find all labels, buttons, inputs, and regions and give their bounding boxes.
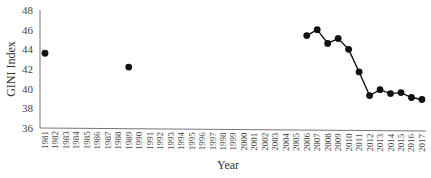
x-tick-label: 1996 <box>197 132 207 151</box>
data-point-2009 <box>335 35 342 42</box>
x-tick-label: 2014 <box>386 133 396 152</box>
y-tick-label: 42 <box>22 63 33 75</box>
data-point-2017 <box>419 96 426 103</box>
y-tick-label: 44 <box>22 43 34 55</box>
x-tick-label: 2011 <box>354 133 364 151</box>
gini-line-chart: 36384042444648 1981198219831984198519861… <box>0 0 431 178</box>
x-tick-label: 2008 <box>323 133 333 152</box>
data-point-2013 <box>377 86 384 93</box>
x-tick-label: 2000 <box>239 132 249 151</box>
x-tick-label: 1993 <box>166 132 176 151</box>
y-tick-label: 36 <box>22 122 34 134</box>
x-tick-label: 1988 <box>113 131 123 150</box>
x-tick-label: 1985 <box>82 131 92 150</box>
x-tick-label: 1986 <box>92 131 102 150</box>
x-tick-label: 2001 <box>249 133 259 151</box>
data-point-2008 <box>324 40 331 47</box>
x-tick-label: 2007 <box>312 133 322 152</box>
x-tick-label: 1997 <box>208 132 218 151</box>
y-tick-label: 48 <box>22 4 34 16</box>
x-tick-label: 2002 <box>260 133 270 151</box>
x-tick-label: 1989 <box>124 131 134 150</box>
x-tick-label: 2009 <box>333 133 343 152</box>
data-point-2011 <box>356 69 363 76</box>
y-axis-title: GINI Index <box>4 41 18 97</box>
x-tick-label: 2015 <box>396 133 406 152</box>
data-point-2014 <box>387 90 394 97</box>
data-point-2016 <box>408 94 415 101</box>
x-tick-label: 2003 <box>270 132 280 151</box>
data-point-1981 <box>42 50 49 57</box>
x-tick-label: 1998 <box>218 132 228 151</box>
x-tick-label: 2006 <box>302 133 312 152</box>
x-tick-label: 2016 <box>406 133 416 152</box>
y-axis-tick-labels: 36384042444648 <box>22 4 34 134</box>
x-tick-label: 1981 <box>40 131 50 149</box>
x-tick-label: 1983 <box>61 131 71 150</box>
x-tick-label: 1999 <box>228 132 238 151</box>
x-tick-label: 1982 <box>50 131 60 149</box>
x-axis-line <box>40 128 426 131</box>
data-point-2015 <box>398 89 405 96</box>
x-tick-label: 1995 <box>187 132 197 151</box>
x-tick-label: 1992 <box>155 132 165 150</box>
data-point-2007 <box>314 26 321 33</box>
y-tick-label: 40 <box>22 83 34 95</box>
x-tick-label: 1987 <box>103 131 113 150</box>
x-tick-label: 2010 <box>344 133 354 152</box>
x-tick-label: 2012 <box>365 134 375 152</box>
x-axis-title: Year <box>217 158 239 172</box>
x-tick-label: 1994 <box>176 132 186 151</box>
series-polyline <box>307 30 422 100</box>
x-tick-label: 1991 <box>145 132 155 150</box>
y-tick-label: 38 <box>22 102 34 114</box>
x-tick-label: 2005 <box>291 132 301 151</box>
series-line <box>307 30 422 100</box>
data-point-2012 <box>366 92 373 99</box>
x-tick-label: 2004 <box>281 132 291 151</box>
data-point-2010 <box>345 46 352 53</box>
x-tick-label: 2017 <box>417 133 427 152</box>
x-tick-label: 2013 <box>375 133 385 152</box>
y-tick-label: 46 <box>22 24 34 36</box>
data-point-1989 <box>125 64 132 71</box>
data-point-2006 <box>303 32 310 39</box>
x-tick-label: 1990 <box>134 131 144 150</box>
x-axis-tick-labels: 1981198219831984198519861987198819891990… <box>40 131 427 152</box>
x-tick-label: 1984 <box>71 131 81 150</box>
